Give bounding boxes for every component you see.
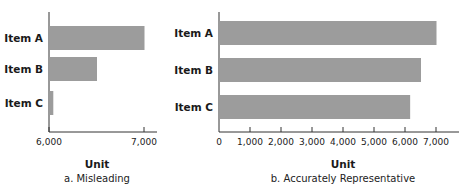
- category-label: Item C: [175, 101, 214, 113]
- chart-accurate: Item AItem BItem C 01,0002,0003,0004,000…: [174, 12, 459, 184]
- chart-caption: b. Accurately Representative: [271, 173, 415, 184]
- chart-misleading: Item AItem BItem C 6,0007,000 Unit a. Mi…: [4, 12, 157, 184]
- bar-item-c: [220, 95, 411, 119]
- category-label: Item A: [174, 27, 214, 39]
- x-tick-label: 6,000: [392, 137, 418, 147]
- bar-item-b: [220, 58, 422, 82]
- x-tick-label: 0: [216, 137, 222, 147]
- x-tick-label: 6,000: [36, 137, 62, 147]
- bar-item-c: [50, 91, 54, 115]
- chart-caption: a. Misleading: [64, 173, 130, 184]
- category-label: Item B: [174, 64, 213, 76]
- x-axis-label: Unit: [331, 158, 356, 170]
- x-tick-label: 7,000: [131, 137, 157, 147]
- category-label: Item B: [4, 63, 43, 75]
- x-tick-label: 2,000: [268, 137, 294, 147]
- x-tick-label: 5,000: [361, 137, 387, 147]
- x-tick-label: 3,000: [299, 137, 325, 147]
- bar-item-a: [50, 26, 145, 50]
- x-tick-label: 7,000: [423, 137, 449, 147]
- comparison-charts: Item AItem BItem C 6,0007,000 Unit a. Mi…: [0, 0, 472, 193]
- x-tick-label: 1,000: [237, 137, 263, 147]
- category-label: Item A: [4, 32, 44, 44]
- x-tick-label: 4,000: [330, 137, 356, 147]
- category-label: Item C: [5, 97, 44, 109]
- bar-item-a: [220, 21, 437, 45]
- x-axis-label: Unit: [85, 158, 110, 170]
- bar-item-b: [50, 57, 98, 81]
